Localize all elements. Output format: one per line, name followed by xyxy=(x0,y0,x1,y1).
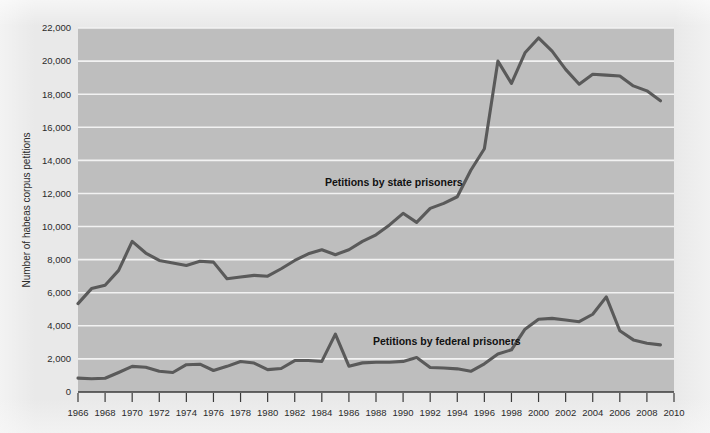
x-tick-label-1968: 1968 xyxy=(95,407,116,418)
series-annotation-federal-prisoners: Petitions by federal prisoners xyxy=(373,335,521,347)
x-tick-label-1970: 1970 xyxy=(122,407,143,418)
habeas-corpus-petitions-chart: 02,0004,0006,0008,00010,00012,00014,0001… xyxy=(0,0,710,433)
y-tick-label-14000: 14,000 xyxy=(42,155,71,166)
x-tick-label-1976: 1976 xyxy=(203,407,224,418)
x-tick-label-2000: 2000 xyxy=(528,407,549,418)
x-tick-label-1984: 1984 xyxy=(311,407,332,418)
chart-page: 02,0004,0006,0008,00010,00012,00014,0001… xyxy=(0,0,710,433)
y-tick-label-0: 0 xyxy=(66,386,71,397)
x-tick-label-1974: 1974 xyxy=(176,407,197,418)
x-tick-label-2004: 2004 xyxy=(582,407,603,418)
y-tick-label-8000: 8,000 xyxy=(47,254,71,265)
y-axis-title: Number of habeas corpus petitions xyxy=(21,132,32,287)
x-tick-label-2010: 2010 xyxy=(663,407,684,418)
y-tick-label-20000: 20,000 xyxy=(42,55,71,66)
x-tick-label-1988: 1988 xyxy=(365,407,386,418)
x-tick-label-2008: 2008 xyxy=(636,407,657,418)
x-tick-label-2002: 2002 xyxy=(555,407,576,418)
x-tick-label-1992: 1992 xyxy=(420,407,441,418)
y-tick-label-18000: 18,000 xyxy=(42,89,71,100)
series-annotation-state-prisoners: Petitions by state prisoners xyxy=(325,176,463,188)
x-tick-label-1998: 1998 xyxy=(501,407,522,418)
y-tick-label-4000: 4,000 xyxy=(47,320,71,331)
x-tick-label-1994: 1994 xyxy=(447,407,468,418)
x-tick-label-1996: 1996 xyxy=(474,407,495,418)
x-tick-label-1980: 1980 xyxy=(257,407,278,418)
y-tick-label-10000: 10,000 xyxy=(42,221,71,232)
y-tick-label-2000: 2,000 xyxy=(47,353,71,364)
x-tick-label-1966: 1966 xyxy=(67,407,88,418)
y-tick-label-6000: 6,000 xyxy=(47,287,71,298)
y-tick-label-22000: 22,000 xyxy=(42,22,71,33)
x-tick-label-1982: 1982 xyxy=(284,407,305,418)
y-tick-label-12000: 12,000 xyxy=(42,188,71,199)
x-tick-label-1990: 1990 xyxy=(393,407,414,418)
x-tick-label-1972: 1972 xyxy=(149,407,170,418)
x-tick-label-1978: 1978 xyxy=(230,407,251,418)
x-tick-label-1986: 1986 xyxy=(338,407,359,418)
y-tick-label-16000: 16,000 xyxy=(42,122,71,133)
x-tick-label-2006: 2006 xyxy=(609,407,630,418)
